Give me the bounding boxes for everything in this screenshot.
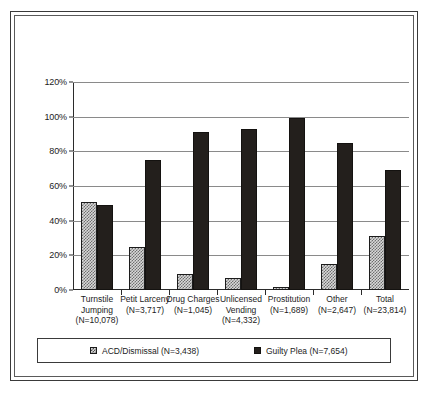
legend-label-acd-dismissal: ACD/Dismissal (N=3,438) (102, 346, 199, 356)
bar-group (177, 82, 209, 290)
y-tick-label-40%: 40% (49, 216, 67, 226)
bar[interactable] (385, 170, 401, 290)
bar-group (369, 82, 401, 290)
bar[interactable] (289, 118, 305, 290)
y-tick-label-100%: 100% (44, 112, 67, 122)
bar-group (273, 82, 305, 290)
bar[interactable] (81, 202, 97, 290)
bar[interactable] (337, 143, 353, 290)
y-tick-mark-80% (69, 151, 73, 152)
x-axis-label-line: (N=23,814) (354, 305, 416, 316)
plot-wrapper: 0%20%40%60%80%100%120% TurnstileJumping(… (15, 16, 413, 376)
bar[interactable] (225, 278, 241, 290)
legend-item-guilty-plea: Guilty Plea (N=7,654) (254, 346, 348, 356)
x-axis-label-line: (N=4,332) (210, 315, 272, 326)
legend-label-guilty-plea: Guilty Plea (N=7,654) (266, 346, 348, 356)
bar[interactable] (129, 247, 145, 290)
bar[interactable] (369, 236, 385, 290)
y-tick-mark-100% (69, 116, 73, 117)
y-tick-mark-60% (69, 186, 73, 187)
plot-area: 0%20%40%60%80%100%120% (73, 82, 409, 290)
bar-group (81, 82, 113, 290)
bar-group (129, 82, 161, 290)
chart-figure-frame: 0%20%40%60%80%100%120% TurnstileJumping(… (10, 11, 418, 381)
x-axis-label: Total(N=23,814) (354, 294, 416, 315)
bar-group (321, 82, 353, 290)
y-tick-mark-40% (69, 220, 73, 221)
x-axis-label-line: (N=10,078) (66, 315, 128, 326)
y-tick-label-60%: 60% (49, 181, 67, 191)
y-tick-label-120%: 120% (44, 77, 67, 87)
bar[interactable] (321, 264, 337, 290)
bar[interactable] (273, 287, 289, 290)
y-tick-mark-20% (69, 255, 73, 256)
bar[interactable] (193, 132, 209, 290)
y-tick-label-20%: 20% (49, 250, 67, 260)
bar[interactable] (97, 205, 113, 290)
bar[interactable] (145, 160, 161, 290)
y-tick-mark-120% (69, 82, 73, 83)
bar[interactable] (177, 274, 193, 290)
bar-group (225, 82, 257, 290)
guilty-plea-swatch-icon (254, 347, 261, 354)
chart-figure-inner-frame: 0%20%40%60%80%100%120% TurnstileJumping(… (14, 15, 414, 377)
chart-legend: ACD/Dismissal (N=3,438) Guilty Plea (N=7… (37, 338, 391, 363)
y-tick-label-80%: 80% (49, 146, 67, 156)
legend-item-acd-dismissal: ACD/Dismissal (N=3,438) (90, 346, 199, 356)
y-tick-mark-0% (69, 290, 73, 291)
x-axis-label-line: Total (354, 294, 416, 305)
bar[interactable] (241, 129, 257, 290)
acd-swatch-icon (90, 347, 97, 354)
